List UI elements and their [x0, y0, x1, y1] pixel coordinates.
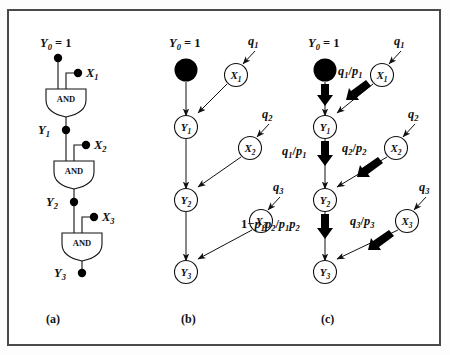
panel-a-node-y1	[62, 126, 70, 134]
panel-c-arrow-q3	[414, 197, 426, 210]
panel-c-label-y0: Y0 = 1	[308, 36, 340, 52]
panel-c-flow-x3-y3	[368, 230, 394, 250]
panel-a-label-x2: X2	[93, 138, 107, 154]
panel-c: Y0 = 1 q1 X1 q1/p1 Y1 q2	[280, 0, 450, 355]
panel-c-flow-x1-y1	[346, 80, 371, 100]
panel-a-wire-x2-gate2	[74, 145, 82, 161]
panel-a-node-x3	[90, 213, 98, 221]
panel-a-label-y2: Y2	[46, 195, 59, 211]
panel-b: Y0 = 1 q1 X1 Y1 q2 X2	[140, 0, 300, 355]
panel-c-flow-y1-y2	[317, 141, 333, 166]
panel-a-label-x3: X3	[101, 210, 115, 226]
panel-a-node-x2	[82, 141, 90, 149]
panel-a-node-y0	[54, 54, 62, 62]
panel-a-node-y3	[78, 269, 86, 277]
panel-c-flow-x2-y2	[357, 157, 383, 177]
panel-b-arrow-q1	[243, 51, 255, 64]
caption-b: (b)	[181, 312, 196, 327]
panel-b-label-q1: q1	[248, 34, 259, 50]
panel-a-wire-x3-gate3	[82, 217, 90, 233]
panel-b-label-y0: Y0 = 1	[169, 36, 201, 52]
panel-c-weight-y1-y2: q1/p1	[282, 144, 306, 160]
panel-c-flow-y2-y3	[317, 214, 333, 239]
panel-a: Y0 = 1 X1 AND Y1 X2 AND Y2	[0, 0, 140, 355]
panel-a-gate-2-label: AND	[65, 166, 83, 176]
panel-b-label-q2: q2	[262, 107, 273, 123]
figure-root: Y0 = 1 X1 AND Y1 X2 AND Y2	[0, 0, 450, 355]
panel-b-edge-x3-y3	[198, 230, 252, 259]
panel-a-label-y3: Y3	[54, 266, 67, 282]
panel-c-arrow-q1	[389, 51, 401, 64]
panel-c-label-q1: q1	[394, 34, 405, 50]
panel-c-label-q3: q3	[419, 180, 430, 196]
panel-a-gate-3-label: AND	[73, 238, 91, 248]
panel-c-weight-x2-y2: q2/p2	[342, 141, 367, 157]
panel-c-label-q2: q2	[408, 107, 419, 123]
panel-c-weight-y2-y3: 1−p1p2/p1p2	[241, 217, 301, 233]
panel-b-arrow-q2	[257, 124, 269, 137]
panel-b-arrow-q3	[268, 197, 280, 210]
panel-a-gate-1-label: AND	[57, 94, 75, 104]
panel-b-edge-x2-y2	[198, 157, 241, 187]
caption-c: (c)	[321, 312, 334, 327]
panel-c-weight-x1-y1: q1/p1	[338, 64, 362, 80]
panel-c-flow-y0-y1	[317, 84, 333, 106]
panel-c-node-y0	[314, 59, 337, 82]
panel-a-label-y1: Y1	[38, 123, 50, 139]
panel-a-node-y2	[70, 198, 78, 206]
caption-a: (a)	[46, 312, 60, 327]
panel-c-weight-x3-y3: q3/p3	[350, 214, 375, 230]
panel-a-label-y0: Y0 = 1	[40, 36, 72, 52]
panel-a-node-x1	[74, 69, 82, 77]
panel-a-label-x1: X1	[85, 66, 99, 82]
panel-c-arrow-q2	[403, 124, 415, 137]
panel-a-wire-x1-gate1	[66, 73, 74, 89]
panel-b-edge-x1-y1	[198, 84, 227, 113]
panel-b-node-y0	[175, 59, 198, 82]
